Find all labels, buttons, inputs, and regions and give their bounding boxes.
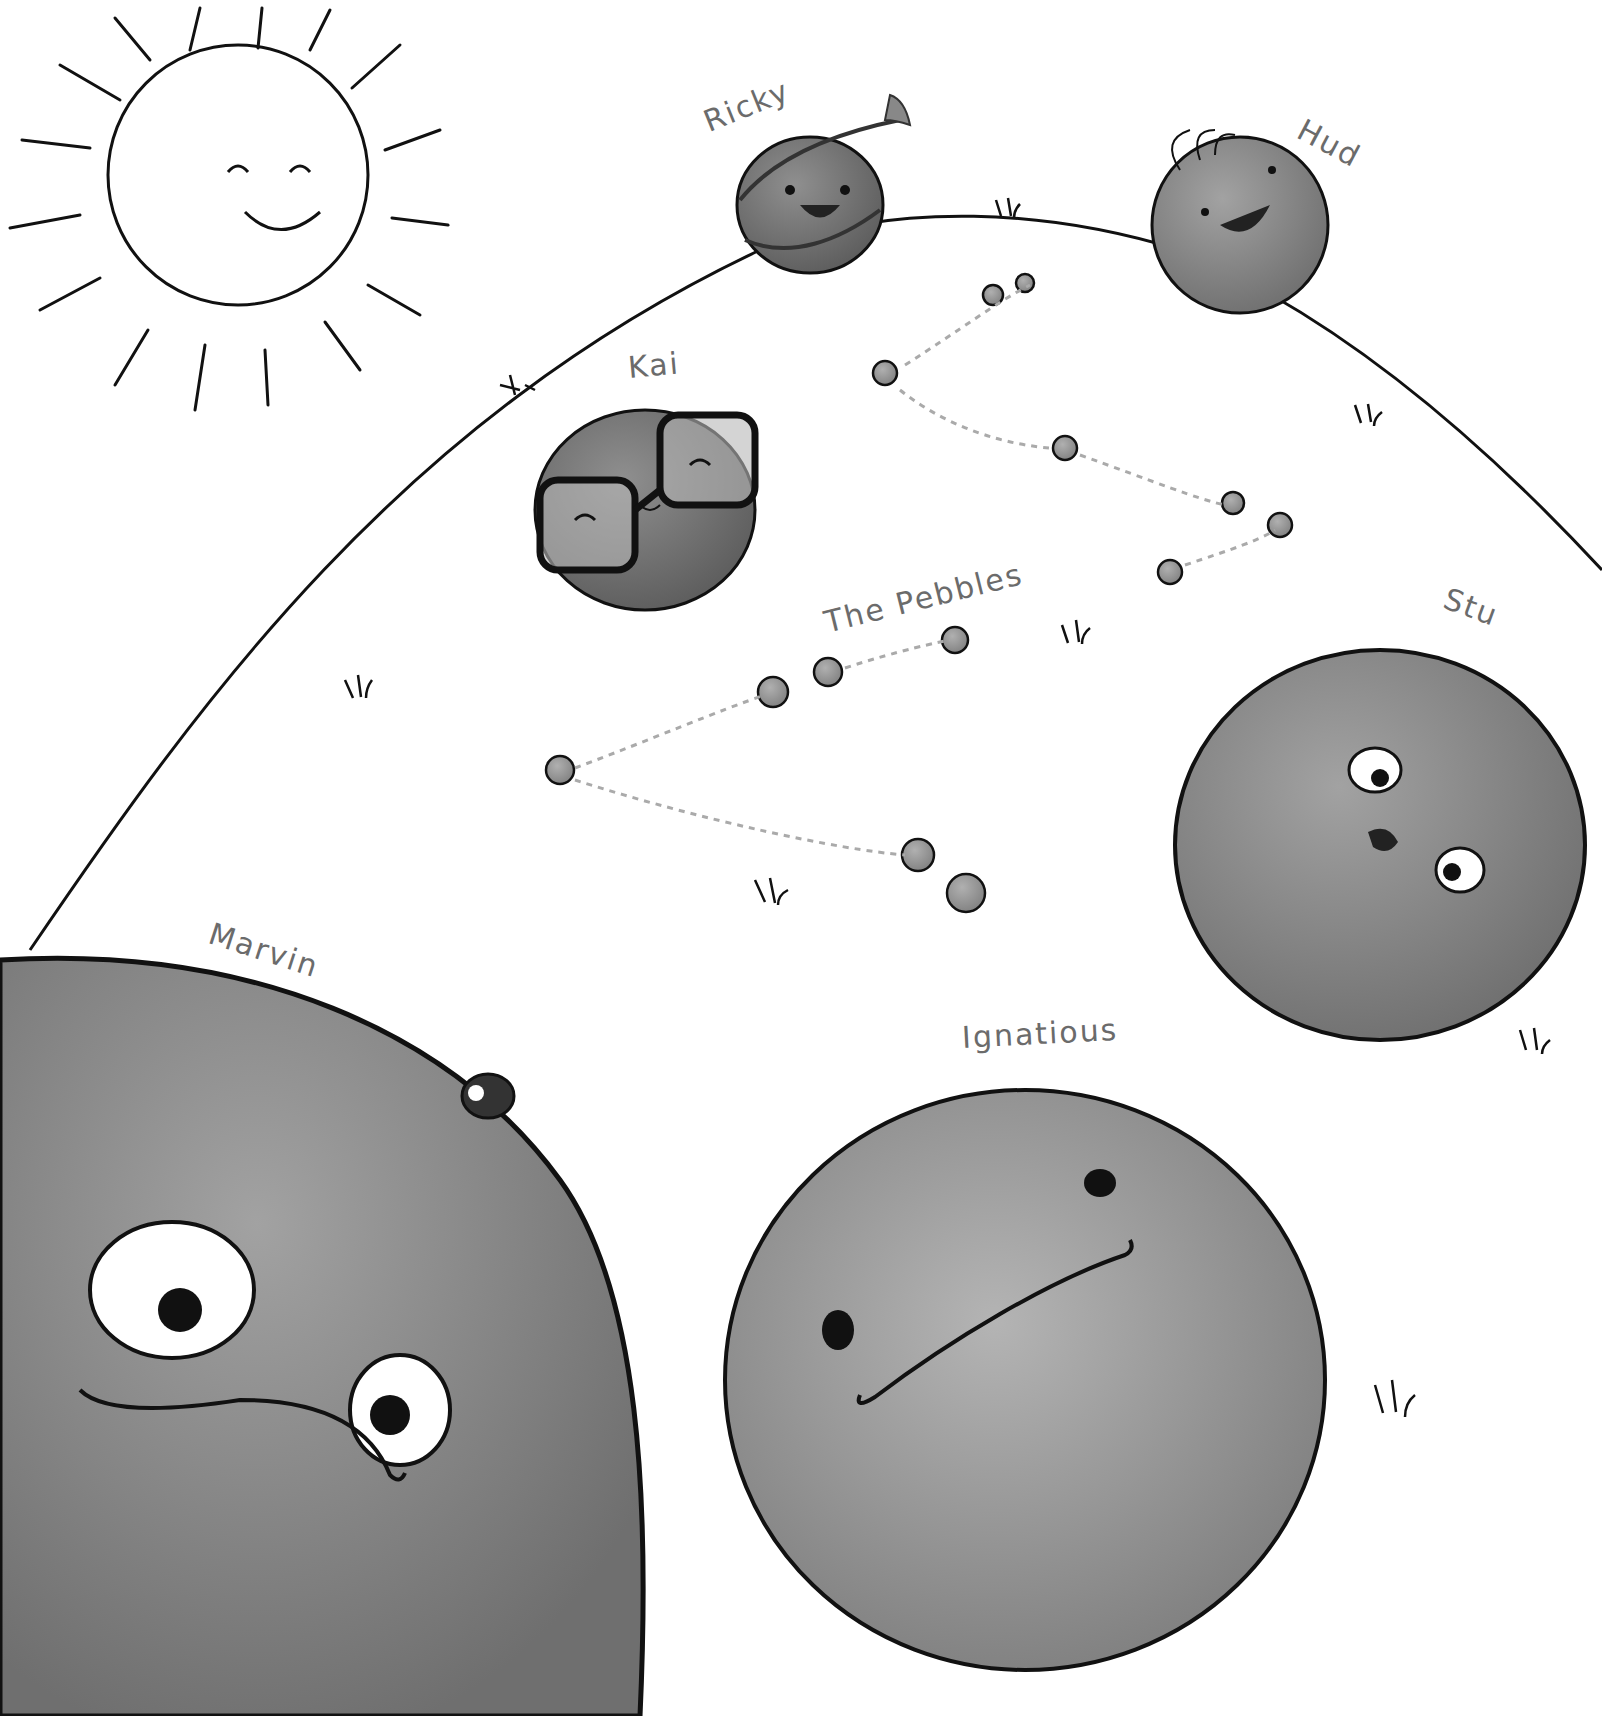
rock-stu: [1175, 650, 1585, 1040]
rock-ricky: [737, 95, 910, 273]
illustration-canvas: [0, 0, 1602, 1716]
illustration-scene: Ricky Hud Kai The Pebbles Stu Marvin Ign…: [0, 0, 1602, 1716]
rock-kai: [535, 410, 755, 610]
rock-marvin: [0, 958, 643, 1716]
label-kai: Kai: [626, 346, 681, 385]
sun: [10, 8, 448, 410]
rock-ignatious: [725, 1090, 1325, 1670]
rock-hud: [1152, 130, 1328, 313]
